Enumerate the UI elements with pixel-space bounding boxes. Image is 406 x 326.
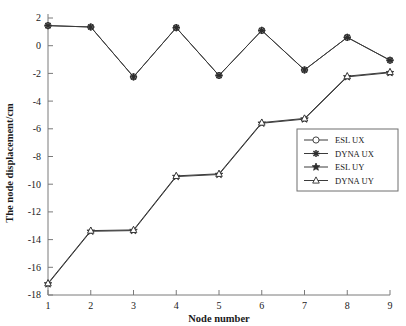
x-axis-tick-labels: 123456789 — [46, 300, 393, 311]
legend-label: ESL UY — [335, 162, 365, 172]
y-tick-label: -8 — [33, 151, 41, 162]
legend-marker — [313, 137, 319, 143]
y-tick-label: -16 — [28, 262, 41, 273]
x-tick-label: 9 — [388, 300, 393, 311]
x-tick-label: 7 — [302, 300, 307, 311]
x-tick-label: 8 — [345, 300, 350, 311]
x-tick-label: 2 — [88, 300, 93, 311]
legend-marker — [312, 150, 319, 157]
data-point — [173, 24, 180, 31]
x-axis-title: Node number — [188, 313, 250, 324]
y-tick-label: -6 — [33, 123, 41, 134]
series-dyna-ux — [44, 22, 393, 80]
data-point — [386, 57, 393, 64]
data-point — [258, 27, 265, 34]
y-axis-title: The node displacement/cm — [4, 103, 15, 223]
legend-label: DYNA UY — [335, 176, 374, 186]
chart-container: 20-2-4-6-8-10-12-14-16-18 123456789 The … — [0, 0, 406, 326]
x-tick-label: 3 — [131, 300, 136, 311]
y-tick-label: -10 — [28, 179, 41, 190]
legend-label: DYNA UX — [335, 149, 375, 159]
data-point — [301, 66, 308, 73]
y-axis-ticks — [48, 18, 53, 295]
y-tick-label: -14 — [28, 234, 41, 245]
x-tick-label: 4 — [174, 300, 179, 311]
y-tick-label: 2 — [36, 12, 41, 23]
x-axis-ticks — [48, 290, 390, 295]
y-tick-label: 0 — [36, 40, 41, 51]
data-point — [344, 34, 351, 41]
x-tick-label: 6 — [259, 300, 264, 311]
data-point — [87, 23, 94, 30]
chart-legend: ESL UXDYNA UXESL UYDYNA UY — [297, 129, 398, 191]
legend-label: ESL UX — [335, 135, 365, 145]
x-tick-label: 1 — [46, 300, 51, 311]
data-point — [215, 72, 222, 79]
x-tick-label: 5 — [217, 300, 222, 311]
series-path — [48, 26, 390, 77]
data-point — [130, 73, 137, 80]
y-tick-label: -4 — [33, 96, 41, 107]
series-path — [48, 26, 390, 77]
y-tick-label: -2 — [33, 68, 41, 79]
line-chart: 20-2-4-6-8-10-12-14-16-18 123456789 The … — [0, 0, 406, 326]
y-axis-tick-labels: 20-2-4-6-8-10-12-14-16-18 — [28, 12, 41, 300]
y-tick-label: -12 — [28, 206, 41, 217]
data-point — [44, 22, 51, 29]
series-esl-ux — [45, 23, 393, 80]
y-tick-label: -18 — [28, 289, 41, 300]
